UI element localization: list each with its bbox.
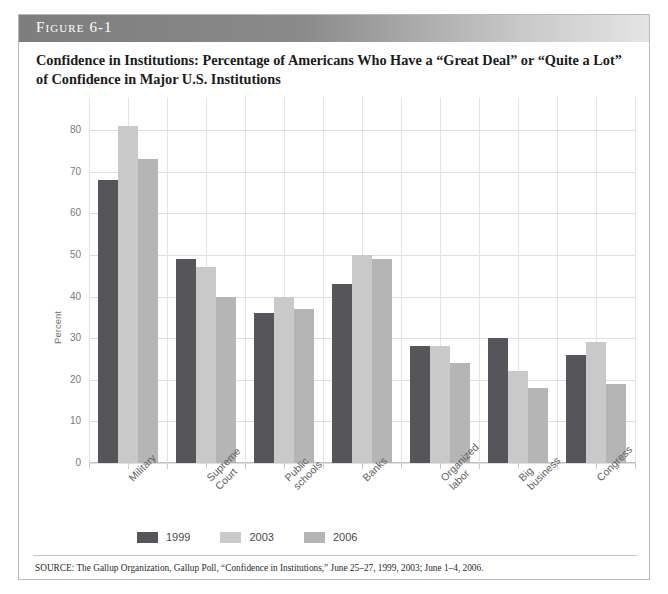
y-axis-tick-label: 20 (59, 375, 81, 385)
x-axis-tickmark (518, 463, 519, 469)
bar-2003-public-schools (274, 297, 294, 464)
gridline-vertical (167, 97, 168, 463)
legend-label-1999: 1999 (166, 531, 190, 543)
bar-1999-military (98, 180, 118, 463)
gridline-vertical (89, 97, 90, 463)
bar-1999-big-business (488, 338, 508, 463)
bar-2006-military (138, 159, 158, 463)
x-axis-tickmark (167, 463, 168, 469)
source-note: SOURCE: The Gallup Organization, Gallup … (35, 562, 635, 574)
legend-label-2006: 2006 (333, 531, 357, 543)
y-axis-tick-label: 80 (59, 125, 81, 135)
figure-title: Confidence in Institutions: Percentage o… (36, 51, 632, 89)
bar-2003-supreme-court (196, 267, 216, 463)
figure-container: Figure 6-1 Confidence in Institutions: P… (18, 14, 650, 580)
y-axis-tick-label: 70 (59, 167, 81, 177)
source-divider (33, 555, 637, 556)
x-axis-tickmark (89, 463, 90, 469)
x-axis-tickmark (128, 463, 129, 469)
bar-1999-supreme-court (176, 259, 196, 463)
y-axis-tick-label: 30 (59, 333, 81, 343)
x-axis-tickmark (440, 463, 441, 469)
legend-label-2003: 2003 (249, 531, 273, 543)
legend-entry-2003[interactable]: 2003 (220, 531, 273, 543)
legend-entry-1999[interactable]: 1999 (137, 531, 190, 543)
gridline-vertical (557, 97, 558, 463)
chart-plot-area: Percent 01020304050607080 MilitarySuprem… (19, 97, 651, 497)
bar-1999-banks (332, 284, 352, 463)
gridline-vertical (401, 97, 402, 463)
chart-grid (89, 97, 635, 469)
bar-2006-public-schools (294, 309, 314, 463)
bar-2003-congress (586, 342, 606, 463)
x-axis-tickmark (596, 463, 597, 469)
bar-2006-supreme-court (216, 297, 236, 464)
bar-2003-banks (352, 255, 372, 463)
bar-1999-public-schools (254, 313, 274, 463)
bar-2003-organized-labor (430, 346, 450, 463)
x-axis-tickmark (206, 463, 207, 469)
y-axis-tick-label: 0 (59, 458, 81, 468)
x-axis-tickmark (362, 463, 363, 469)
bar-2003-big-business (508, 371, 528, 463)
figure-number-label: Figure 6-1 (36, 19, 113, 36)
bar-2003-military (118, 126, 138, 463)
gridline-vertical (245, 97, 246, 463)
x-axis-tickmark (284, 463, 285, 469)
bar-1999-organized-labor (410, 346, 430, 463)
figure-banner: Figure 6-1 (19, 15, 649, 42)
legend-entry-2006[interactable]: 2006 (304, 531, 357, 543)
x-axis-tickmark (401, 463, 402, 469)
gridline-vertical (635, 97, 636, 463)
chart-legend: 199920032006 (137, 531, 387, 543)
legend-swatch-1999 (137, 532, 158, 543)
y-axis-tick-label: 50 (59, 250, 81, 260)
legend-swatch-2006 (304, 532, 325, 543)
y-axis-tick-label: 60 (59, 208, 81, 218)
y-axis-tick-label: 10 (59, 416, 81, 426)
bar-1999-congress (566, 355, 586, 463)
x-axis-tickmark (635, 463, 636, 469)
legend-swatch-2003 (220, 532, 241, 543)
gridline-vertical (479, 97, 480, 463)
bar-2006-banks (372, 259, 392, 463)
y-axis-tick-label: 40 (59, 292, 81, 302)
gridline-vertical (323, 97, 324, 463)
